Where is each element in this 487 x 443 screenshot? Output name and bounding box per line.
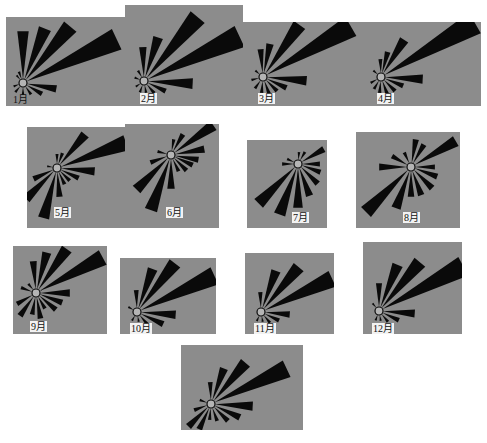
wedge [135,83,140,87]
wedge [172,139,176,151]
month-label: 2月 [140,93,157,104]
rose-panel-5: 5月 [27,127,125,228]
wedge [302,162,320,167]
wedge [13,84,19,87]
wedge [47,165,53,167]
wedge [298,152,301,160]
rose-panel-12: 12月 [363,242,462,334]
month-label: 3月 [258,93,275,104]
wedge [415,164,435,169]
rose-panel-7: 7月 [247,140,327,228]
rose-panel-13 [181,345,303,430]
rose-panel-6: 6月 [125,124,219,228]
wedge [134,290,139,308]
rose-panel-11: 11月 [245,253,334,334]
wedge [138,316,140,322]
hub-circle [407,163,415,171]
month-label: 10月 [130,323,152,334]
wedge [145,85,148,93]
month-label: 6月 [166,207,183,218]
wedge [258,49,264,73]
hub-circle [140,77,148,85]
wedge [139,47,146,77]
wedge [139,85,143,93]
hub-circle [377,73,385,81]
rose-panel-10: 10月 [120,258,216,334]
hub-circle [259,73,267,81]
hub-circle [257,308,265,316]
wedge [376,283,382,307]
wedge [148,26,243,79]
hub-circle [375,307,383,315]
wedge [157,150,167,154]
rose-panel-9: 9月 [13,246,107,334]
hub-circle [294,160,302,168]
month-label: 7月 [292,212,309,223]
wedge [131,315,135,321]
wedge [262,316,264,322]
wedge [287,158,295,163]
wedge [30,261,37,289]
month-label: 9月 [30,321,47,332]
wedge [265,311,290,317]
wedge [251,78,259,81]
month-label: 1月 [12,94,29,105]
hub-circle [53,164,61,172]
rose-panel-1: 1月 [6,17,125,106]
rose-chart [181,345,303,430]
wedge [141,310,176,319]
wedge [408,171,415,197]
wedge [379,164,407,171]
rose-chart [13,246,107,334]
wedge [256,316,260,322]
wedge [134,77,140,80]
wedge [137,70,142,78]
wedge [128,306,134,310]
rose-panel-8: 8月 [356,132,460,228]
month-label: 11月 [254,323,276,334]
wedge [14,86,20,93]
wedge [212,408,219,422]
wedge [378,59,382,73]
rose-chart [27,127,125,228]
rose-chart [363,242,462,334]
wedge [372,303,377,308]
wedge [385,75,423,84]
wedge [383,310,415,318]
wedge [148,78,193,89]
wedge [255,70,260,75]
month-label: 4月 [377,93,394,104]
rose-panel-3: 3月 [243,22,366,106]
hub-circle [167,151,175,159]
wedge [258,292,262,308]
wedge [260,81,263,93]
rose-chart [6,17,125,106]
wedge [61,167,95,175]
month-label: 5月 [54,207,71,218]
wedge [378,81,381,93]
wedge [56,172,62,197]
wedge [282,162,294,165]
wedge [254,80,261,89]
wedge [373,70,378,75]
hub-circle [133,308,141,316]
rose-panel-2: 2月 [125,5,243,106]
wedge [375,315,378,321]
rose-chart [245,253,334,334]
wedge [194,405,208,412]
month-label: 12月 [372,323,394,334]
wedge [215,360,291,402]
wedge [403,152,410,164]
wedge [380,315,382,321]
wedge [150,156,168,164]
wedge [370,79,378,84]
wedge [208,382,213,400]
wedge [27,283,33,290]
wedge [55,154,58,164]
rose-chart [125,5,243,106]
month-label: 8月 [403,212,420,223]
wedge [199,399,207,403]
hub-circle [32,289,40,297]
rose-panel-4: 4月 [366,22,481,106]
rose-chart [247,140,327,228]
